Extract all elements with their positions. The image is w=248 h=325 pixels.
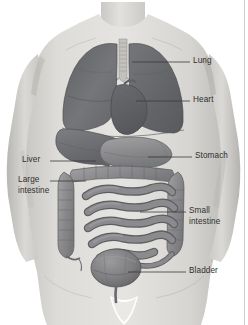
label-heart: Heart <box>193 95 214 106</box>
label-large-intestine-line1: Large <box>18 175 80 186</box>
label-lung: Lung <box>193 56 212 67</box>
label-bladder: Bladder <box>189 266 218 277</box>
label-liver: Liver <box>22 155 40 166</box>
label-large-intestine: Large intestine <box>18 175 80 196</box>
frame-right-border <box>244 0 245 325</box>
anatomy-diagram: Lung Heart Stomach Liver Large intestine… <box>0 0 248 325</box>
label-small-intestine-line2: intestine <box>189 217 247 228</box>
label-large-intestine-line2: intestine <box>18 186 80 197</box>
label-small-intestine: Small intestine <box>189 206 247 227</box>
label-stomach: Stomach <box>195 151 228 162</box>
label-small-intestine-line1: Small <box>189 206 247 217</box>
